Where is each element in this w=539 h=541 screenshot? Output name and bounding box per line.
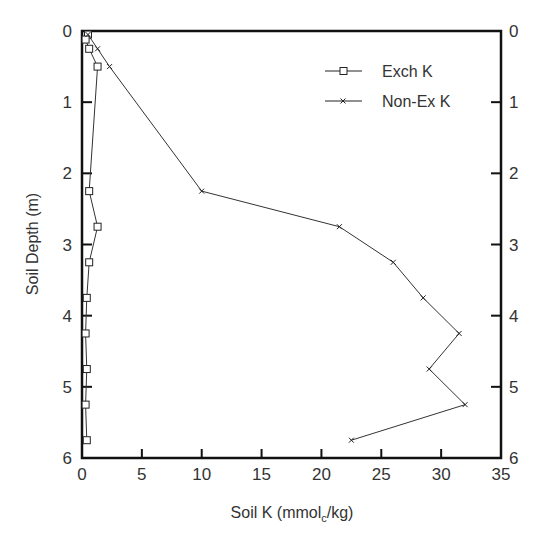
x-tick-label: 30 [432, 465, 451, 484]
x-tick-label: 10 [192, 465, 211, 484]
square-marker [94, 63, 101, 70]
x-tick-label: 15 [252, 465, 271, 484]
legend: Exch K Non-Ex K [325, 63, 451, 110]
depth-profile-chart: 0510152025303500112233445566 Soil Depth … [0, 0, 539, 541]
square-marker [83, 294, 90, 301]
y-tick-label-left: 5 [63, 378, 72, 397]
x-marker [349, 438, 354, 443]
x-tick-label: 20 [312, 465, 331, 484]
x-tick-label: 5 [137, 465, 146, 484]
y-tick-label-right: 5 [509, 378, 518, 397]
x-marker [95, 46, 100, 51]
square-marker [83, 437, 90, 444]
square-marker [94, 223, 101, 230]
square-marker [82, 401, 89, 408]
x-marker [463, 402, 468, 407]
x-tick-label: 0 [77, 465, 86, 484]
square-marker [86, 45, 93, 52]
x-marker [427, 367, 432, 372]
y-tick-label-right: 0 [509, 22, 518, 41]
y-tick-label-right: 1 [509, 93, 518, 112]
y-tick-label-left: 4 [63, 307, 72, 326]
x-marker [421, 295, 426, 300]
x-marker [457, 331, 462, 336]
y-tick-label-right: 2 [509, 164, 518, 183]
y-tick-label-left: 6 [63, 449, 72, 468]
square-marker [86, 259, 93, 266]
square-marker-icon [340, 68, 347, 75]
y-tick-label-left: 2 [63, 164, 72, 183]
legend-exch-k: Exch K [382, 63, 433, 80]
y-tick-label-left: 1 [63, 93, 72, 112]
x-tick-label: 35 [492, 465, 511, 484]
y-tick-label-left: 3 [63, 236, 72, 255]
legend-non-ex-k: Non-Ex K [382, 93, 451, 110]
square-marker [83, 366, 90, 373]
y-tick-label-left: 0 [63, 22, 72, 41]
x-axis-label: Soil K (mmolc/kg) [231, 504, 354, 524]
square-marker [86, 188, 93, 195]
y-tick-label-right: 6 [509, 449, 518, 468]
y-tick-label-right: 4 [509, 307, 518, 326]
y-tick-label-right: 3 [509, 236, 518, 255]
x-tick-label: 25 [372, 465, 391, 484]
y-axis-label: Soil Depth (m) [24, 193, 41, 295]
x-marker [391, 260, 396, 265]
series-line-0 [86, 35, 98, 441]
x-marker [107, 64, 112, 69]
square-marker [82, 330, 89, 337]
